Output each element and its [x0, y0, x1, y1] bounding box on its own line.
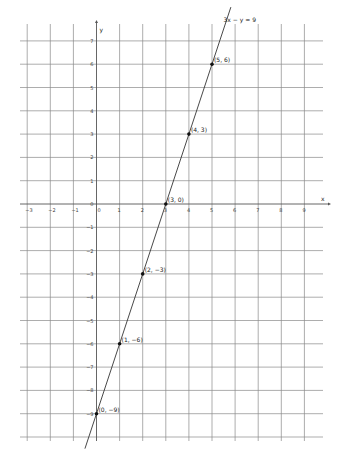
y-tick-label: −3	[86, 271, 93, 277]
point-label: (3, 0)	[168, 196, 184, 203]
x-tick-label: 5	[210, 207, 213, 213]
point-label: (2, −3)	[145, 266, 166, 273]
y-tick-label: −6	[86, 341, 93, 347]
y-tick-label: −2	[86, 248, 93, 254]
graph: xy −3−2−1012345678976543210−1−2−3−4−5−6−…	[0, 0, 339, 461]
x-tick-label: 8	[279, 207, 282, 213]
y-tick-label: 6	[90, 61, 93, 67]
y-axis-arrow-icon	[95, 20, 98, 23]
y-tick-label: −4	[86, 294, 93, 300]
line-series	[85, 7, 231, 449]
y-tick-label: 4	[90, 108, 93, 114]
y-tick-label: 3	[90, 131, 93, 137]
y-tick-label: −9	[86, 411, 93, 417]
y-tick-label: 7	[90, 38, 93, 44]
x-tick-label: 1	[118, 207, 121, 213]
y-tick-label: −1	[86, 224, 93, 230]
grid-lines	[20, 24, 323, 441]
x-tick-label: 7	[256, 207, 259, 213]
x-tick-label: 6	[233, 207, 236, 213]
x-tick-label: −2	[48, 207, 55, 213]
point-label: (4, 3)	[191, 126, 207, 133]
point-labels: (0, −9)(1, −6)(2, −3)(3, 0)(4, 3)(5, 6)3…	[99, 16, 257, 412]
x-axis-label: x	[321, 195, 325, 202]
y-tick-label: −8	[86, 387, 93, 393]
equation-label: 3x − y = 9	[224, 16, 257, 24]
x-tick-label: −1	[71, 207, 78, 213]
y-tick-label: 5	[90, 85, 93, 91]
x-tick-label: 9	[302, 207, 305, 213]
x-tick-label: 2	[141, 207, 144, 213]
equation-line	[85, 7, 231, 449]
y-tick-label: −5	[86, 318, 93, 324]
y-tick-label: 1	[90, 178, 93, 184]
x-tick-label: 4	[187, 207, 190, 213]
point-label: (0, −9)	[99, 406, 120, 413]
x-tick-label: −3	[25, 207, 32, 213]
point-label: (1, −6)	[122, 336, 143, 343]
y-tick-label: 0	[90, 201, 93, 207]
x-tick-label: 0	[98, 207, 101, 213]
y-axis-label: y	[100, 26, 104, 34]
y-tick-label: −7	[86, 364, 93, 370]
x-axis-arrow-icon	[328, 203, 331, 206]
y-tick-label: 2	[90, 154, 93, 160]
point-label: (5, 6)	[214, 56, 230, 63]
axes: xy	[20, 20, 331, 441]
